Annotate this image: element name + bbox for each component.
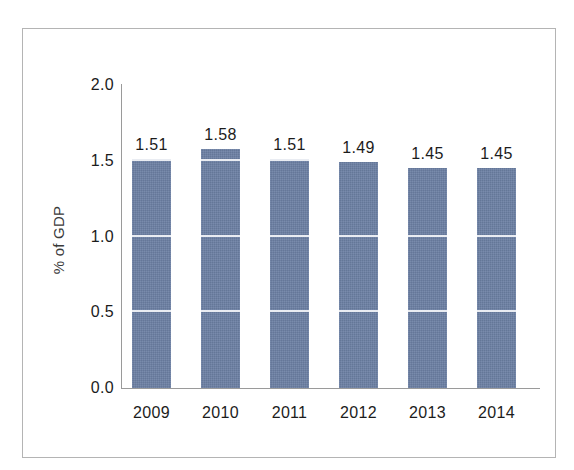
- x-tick-label: 2013: [409, 404, 446, 422]
- y-tick-label: 1.0: [70, 228, 114, 246]
- x-tick-slot: 2010: [201, 0, 240, 470]
- x-tick-label: 2014: [478, 404, 515, 422]
- x-tick-slot: 2009: [132, 0, 171, 470]
- x-tick-label: 2012: [340, 404, 377, 422]
- y-tick-label: 1.5: [70, 152, 114, 170]
- x-tick-slot: 2013: [408, 0, 447, 470]
- y-tick-label: 0.0: [70, 379, 114, 397]
- y-axis-tick-labels: 2.0 1.5 1.0 0.5 0.0: [70, 0, 114, 470]
- x-tick-slot: 2012: [339, 0, 378, 470]
- y-axis-title: % of GDP: [50, 206, 67, 274]
- x-tick-slot: 2014: [477, 0, 516, 470]
- bar-chart: % of GDP 2.0 1.5 1.0 0.5 0.0 1.51 1.58 1…: [0, 0, 574, 470]
- x-tick-label: 2009: [133, 404, 170, 422]
- x-tick-label: 2010: [202, 404, 239, 422]
- x-axis-tick-labels: 2009 2010 2011 2012 2013 2014: [121, 0, 540, 470]
- y-tick-label: 2.0: [70, 76, 114, 94]
- x-tick-slot: 2011: [270, 0, 309, 470]
- y-tick-label: 0.5: [70, 303, 114, 321]
- x-tick-label: 2011: [272, 404, 308, 422]
